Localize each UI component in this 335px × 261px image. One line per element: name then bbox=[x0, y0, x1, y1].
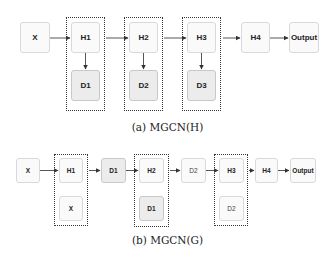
node-d2-inner: D2 bbox=[219, 196, 244, 221]
node-h1: H1 bbox=[59, 158, 83, 183]
node-d3: D3 bbox=[187, 70, 216, 101]
node-x-inner: X bbox=[59, 196, 83, 221]
node-d1: D1 bbox=[71, 70, 100, 101]
caption-a: (a) MGCN(H) bbox=[0, 121, 335, 133]
node-h3: H3 bbox=[219, 158, 244, 183]
node-d2: D2 bbox=[181, 158, 206, 183]
node-h4: H4 bbox=[241, 22, 270, 53]
node-d1-inner: D1 bbox=[139, 196, 164, 221]
node-h2: H2 bbox=[139, 158, 164, 183]
node-d2: D2 bbox=[129, 70, 158, 101]
node-x: X bbox=[16, 158, 40, 183]
node-h3: H3 bbox=[187, 22, 216, 53]
node-d1: D1 bbox=[101, 158, 126, 183]
node-h1: H1 bbox=[71, 22, 100, 53]
node-output: Output bbox=[289, 22, 319, 53]
node-h2: H2 bbox=[129, 22, 158, 53]
node-h4: H4 bbox=[255, 158, 278, 183]
node-output: Output bbox=[290, 158, 316, 183]
node-x: X bbox=[20, 22, 50, 53]
caption-b: (b) MGCN(G) bbox=[0, 234, 335, 246]
